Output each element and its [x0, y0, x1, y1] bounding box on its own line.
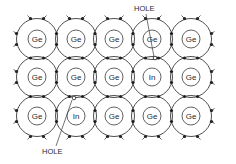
hole-marker — [153, 56, 157, 60]
atom-symbol: Ge — [186, 35, 197, 44]
atom-symbol: Ge — [109, 73, 120, 82]
electron — [68, 95, 71, 98]
lattice-diagram: GeGeGeGeGeGeGeGeInGeGeInGeGeGe HOLEHOLE — [0, 0, 236, 164]
atom-symbol: In — [149, 73, 156, 82]
hole-label: HOLE — [134, 4, 154, 13]
electron — [106, 95, 109, 98]
electron — [170, 120, 173, 123]
atom-symbol: Ge — [147, 35, 158, 44]
electron — [144, 56, 147, 59]
atom-symbol: Ge — [71, 35, 82, 44]
electron — [157, 56, 160, 59]
electron — [119, 95, 122, 98]
atom-symbol: Ge — [32, 73, 43, 82]
electron — [93, 43, 96, 46]
electron — [81, 56, 84, 59]
electron — [157, 95, 160, 98]
electron — [170, 43, 173, 46]
electron — [183, 56, 186, 59]
atom-symbol: Ge — [32, 112, 43, 121]
hole-pointer-line — [56, 100, 72, 146]
electron — [131, 70, 134, 73]
electron — [131, 120, 134, 123]
electron — [93, 70, 96, 73]
electron — [42, 95, 45, 98]
electron — [196, 56, 199, 59]
electron — [170, 81, 173, 84]
electron — [55, 120, 58, 123]
electron — [55, 70, 58, 73]
atom-symbol: Ge — [186, 73, 197, 82]
electron — [106, 56, 109, 59]
electron — [93, 32, 96, 35]
electron — [196, 95, 199, 98]
electron — [93, 81, 96, 84]
hole-label: HOLE — [42, 147, 62, 156]
electron — [93, 120, 96, 123]
electron — [131, 109, 134, 112]
electron — [81, 95, 84, 98]
atom-symbol: Ge — [147, 112, 158, 121]
electron — [93, 109, 96, 112]
atom-symbol: Ge — [71, 73, 82, 82]
hole-marker — [72, 96, 76, 100]
electron — [29, 56, 32, 59]
electron — [119, 56, 122, 59]
electron — [131, 32, 134, 35]
electron — [170, 70, 173, 73]
electron — [42, 56, 45, 59]
electron — [29, 95, 32, 98]
electron — [170, 109, 173, 112]
atom-symbol: Ge — [109, 35, 120, 44]
electron — [55, 43, 58, 46]
electron — [68, 56, 71, 59]
atom-symbol: Ge — [32, 35, 43, 44]
electron — [144, 95, 147, 98]
electron — [131, 81, 134, 84]
electron — [55, 109, 58, 112]
electron — [55, 81, 58, 84]
atom-symbol: Ge — [109, 112, 120, 121]
electron — [183, 95, 186, 98]
electron — [55, 32, 58, 35]
electron — [170, 32, 173, 35]
electron — [131, 43, 134, 46]
atom-symbol: In — [73, 112, 80, 121]
atom-symbol: Ge — [186, 112, 197, 121]
lattice-svg: GeGeGeGeGeGeGeGeInGeGeInGeGeGe HOLEHOLE — [0, 0, 236, 164]
